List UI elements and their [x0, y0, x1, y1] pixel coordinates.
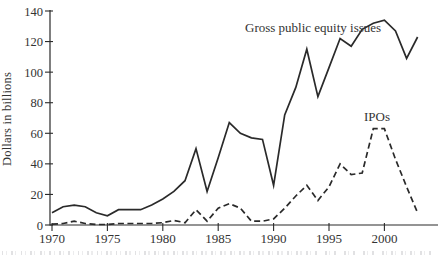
x-tick-label: 1990 — [261, 231, 287, 246]
cropped-caption-fragment — [2, 251, 432, 255]
x-tick-label: 1985 — [205, 231, 231, 246]
x-tick-label: 1995 — [316, 231, 342, 246]
y-tick-label: 20 — [31, 188, 44, 202]
chart-canvas: 0204060801001201401970197519801985199019… — [0, 0, 448, 256]
y-tick-label: 40 — [31, 157, 44, 171]
x-tick-label: 1980 — [150, 231, 176, 246]
series-label-gross-public-equity: Gross public equity issues — [245, 20, 381, 35]
equity-issues-chart: 0204060801001201401970197519801985199019… — [0, 0, 448, 256]
y-tick-label: 80 — [31, 96, 44, 110]
x-tick-label: 2000 — [371, 231, 397, 246]
y-tick-label: 120 — [24, 35, 43, 49]
gross-public-equity-line — [52, 20, 418, 216]
y-tick-label: 60 — [31, 127, 44, 141]
ipos-line — [52, 129, 418, 225]
series-label-ipos: IPOs — [364, 109, 390, 124]
x-tick-label: 1975 — [94, 231, 120, 246]
x-tick-label: 1970 — [39, 231, 65, 246]
y-tick-label: 140 — [24, 5, 43, 19]
y-axis-title: Dollars in billions — [0, 72, 14, 166]
y-tick-label: 100 — [24, 66, 43, 80]
